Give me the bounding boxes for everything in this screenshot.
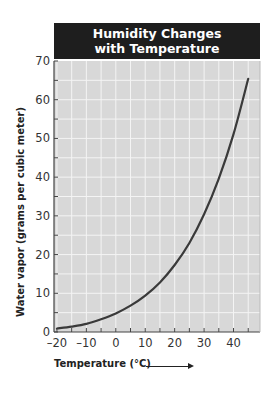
x-tick-label: 30 [197, 336, 212, 350]
y-tick-label: 20 [35, 248, 50, 262]
y-tick-label: 10 [35, 286, 50, 300]
x-tick-label: 0 [112, 336, 119, 350]
x-axis-label: Temperature (°C) [54, 358, 151, 369]
y-tick-label: 70 [35, 54, 50, 68]
x-tick-label: –20 [47, 336, 67, 350]
x-tick-label: 20 [167, 336, 182, 350]
y-tick-label: 50 [35, 131, 50, 145]
y-tick-label: 30 [35, 209, 50, 223]
x-tick-label: –10 [76, 336, 96, 350]
x-tick-label: 40 [226, 336, 241, 350]
y-tick-label: 40 [35, 170, 50, 184]
x-tick-label: 10 [138, 336, 153, 350]
y-axis-label: Water vapor (grams per cubic meter) [15, 107, 26, 317]
chart-plot: 010203040506070–20–10010203040 [0, 0, 277, 395]
x-axis-arrow-icon [146, 366, 192, 367]
y-tick-label: 60 [35, 93, 50, 107]
